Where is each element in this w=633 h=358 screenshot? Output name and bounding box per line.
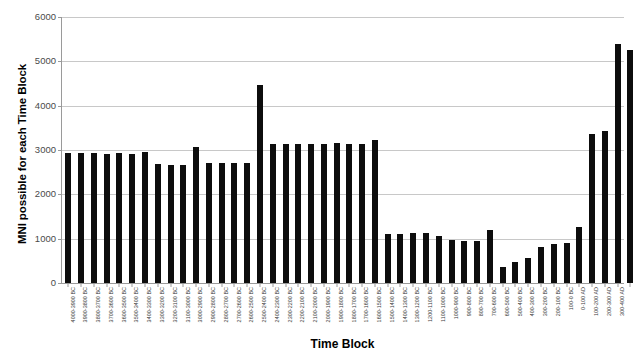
bar [142, 152, 148, 283]
bar [104, 154, 110, 283]
bar-slot [420, 17, 433, 283]
x-axis-tick-label: 3400-3300 BC [146, 287, 152, 335]
bar-slot [586, 17, 599, 283]
bar-slot [113, 17, 126, 283]
bar-series [62, 17, 624, 283]
x-axis-tick-mark [630, 283, 631, 287]
bar [257, 85, 263, 283]
x-axis-tick-label: 3100-3000 BC [185, 287, 191, 335]
bar [397, 234, 403, 283]
bar [206, 163, 212, 283]
y-axis-tick-label: 6000 [10, 11, 56, 22]
x-axis-tick-label: 600-500 BC [504, 287, 510, 335]
bar-slot [228, 17, 241, 283]
x-axis-tick-label: 300-200 BC [542, 287, 548, 335]
x-axis-tick-label: 1100-1000 BC [440, 287, 446, 335]
bar [487, 230, 493, 283]
bar-slot [203, 17, 216, 283]
bar-slot [241, 17, 254, 283]
bar [91, 153, 97, 283]
bar-slot [509, 17, 522, 283]
y-axis-tick-label: 2000 [10, 188, 56, 199]
x-axis-tick-label: 0-100 AD [580, 287, 586, 335]
y-axis-tick-label: 3000 [10, 144, 56, 155]
x-axis-tick-label: 1600-1500 BC [376, 287, 382, 335]
bar [321, 144, 327, 283]
x-axis-tick-label: 3700-3600 BC [108, 287, 114, 335]
y-axis-tick-label: 1000 [10, 233, 56, 244]
bar [423, 233, 429, 283]
bar-slot [305, 17, 318, 283]
bar [602, 131, 608, 284]
bar-slot [126, 17, 139, 283]
bar [295, 144, 301, 283]
bar [385, 234, 391, 283]
bar [270, 144, 276, 283]
x-axis-tick-label: 1500-1400 BC [389, 287, 395, 335]
bar-slot [547, 17, 560, 283]
bar [334, 143, 340, 283]
x-axis-tick-label: 1400-1300 BC [402, 287, 408, 335]
bar-slot [471, 17, 484, 283]
x-axis-tick-label: 3600-3500 BC [121, 287, 127, 335]
x-axis-tick-label: 500-400 BC [517, 287, 523, 335]
bar [589, 134, 595, 283]
x-axis-tick-label: 2700-2600 BC [236, 287, 242, 335]
x-axis-tick-labels: 4000-3900 BC3900-3800 BC3800-3700 BC3700… [61, 287, 623, 335]
bar-slot [164, 17, 177, 283]
bar-slot [151, 17, 164, 283]
x-axis-tick-label: 3500-3400 BC [133, 287, 139, 335]
bar-slot [343, 17, 356, 283]
bar-slot [496, 17, 509, 283]
bar-slot [573, 17, 586, 283]
bar [627, 50, 633, 283]
bar [538, 247, 544, 283]
bar [346, 144, 352, 283]
bar [129, 154, 135, 283]
x-axis-tick-label: 2800-2700 BC [223, 287, 229, 335]
bar [168, 165, 174, 283]
bar [449, 240, 455, 283]
bar [219, 163, 225, 283]
bar [576, 227, 582, 283]
bar-slot [381, 17, 394, 283]
x-axis-tick-label: 4000-3900 BC [70, 287, 76, 335]
x-axis-tick-label: 2200-2100 BC [299, 287, 305, 335]
bar [512, 262, 518, 283]
x-axis-tick-label: 200-100 BC [555, 287, 561, 335]
bar-slot [190, 17, 203, 283]
bar [500, 267, 506, 283]
x-axis-tick-label: 2000-1900 BC [325, 287, 331, 335]
x-axis-tick-label: 100-0 BC [568, 287, 574, 335]
x-axis-tick-label: 2400-2300 BC [274, 287, 280, 335]
x-axis-tick-label: 3300-3200 BC [159, 287, 165, 335]
bar-slot [484, 17, 497, 283]
bar-slot [177, 17, 190, 283]
bar-slot [624, 17, 633, 283]
bar [359, 144, 365, 283]
bar-slot [100, 17, 113, 283]
x-axis-tick-label: 2500-2400 BC [261, 287, 267, 335]
bar-slot [254, 17, 267, 283]
bar-slot [369, 17, 382, 283]
bar [461, 241, 467, 283]
x-axis-tick-label: 2900-2800 BC [210, 287, 216, 335]
bar-slot [317, 17, 330, 283]
x-axis-tick-label: 3800-3700 BC [95, 287, 101, 335]
bar [525, 258, 531, 283]
bar-slot [407, 17, 420, 283]
x-axis-tick-label: 1900-1800 BC [338, 287, 344, 335]
x-axis-tick-label: 100-200 AD [593, 287, 599, 335]
y-axis-tick-mark [58, 283, 62, 284]
bar [244, 163, 250, 283]
x-axis-tick-label: 400-300 BC [529, 287, 535, 335]
x-axis-tick-label: 2300-2200 BC [287, 287, 293, 335]
bar-slot [356, 17, 369, 283]
x-axis-tick-label: 700-600 BC [491, 287, 497, 335]
bar-slot [598, 17, 611, 283]
bar-chart: MNI possible for each Time Block 6000500… [0, 0, 633, 358]
bar-slot [535, 17, 548, 283]
bar [564, 243, 570, 283]
bar-slot [611, 17, 624, 283]
bar-slot [292, 17, 305, 283]
